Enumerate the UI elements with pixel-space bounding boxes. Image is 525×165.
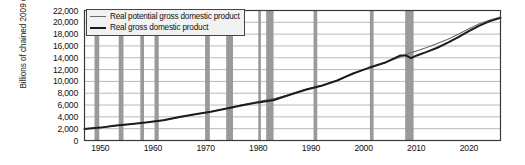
x-tick-label: 1990 (302, 143, 320, 153)
recession-band (266, 11, 273, 141)
legend-label-actual: Real gross domestic product (110, 23, 208, 32)
legend-label-potential: Real potential gross domestic product (110, 12, 240, 21)
legend: Real potential gross domestic product Re… (86, 9, 245, 36)
legend-item-actual: Real gross domestic product (90, 22, 240, 33)
x-tick-label: 1970 (196, 143, 214, 153)
x-tick-label: 1960 (144, 143, 162, 153)
x-axis-tick-labels: 19501960197019801990200020102020 (0, 143, 525, 159)
legend-line-actual-icon (90, 27, 106, 29)
recession-band (314, 11, 318, 141)
gdp-chart: Billions of chained 2009 dollars 02,0004… (0, 0, 525, 165)
x-tick-label: 2010 (407, 143, 425, 153)
recession-band (258, 11, 261, 141)
legend-item-potential: Real potential gross domestic product (90, 11, 240, 22)
plot-area (0, 0, 525, 165)
x-tick-label: 2020 (460, 143, 478, 153)
x-tick-label: 1950 (91, 143, 109, 153)
recession-band (405, 11, 413, 141)
x-tick-label: 2000 (354, 143, 372, 153)
x-tick-label: 1980 (249, 143, 267, 153)
legend-line-potential-icon (90, 16, 106, 17)
recession-band (370, 11, 374, 141)
